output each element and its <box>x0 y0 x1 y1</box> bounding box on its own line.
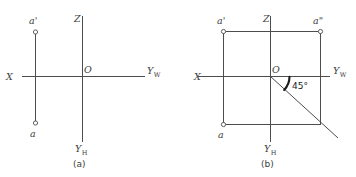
panel-b-point-front-marker <box>221 29 225 33</box>
panel-a-label-a: a <box>30 128 36 139</box>
panel-a-label-z: Z <box>73 13 81 24</box>
panel-a-point-front-marker <box>33 30 37 34</box>
projection-figure-svg: a' a X Z O YW YH (a) <box>0 0 356 177</box>
panel-b-label-a-double-prime: a" <box>313 15 323 26</box>
panel-a-caption: (a) <box>73 159 86 169</box>
figure-root: a' a X Z O YW YH (a) <box>0 0 356 177</box>
panel-b-label-origin: O <box>272 64 280 75</box>
panel-a-point-top-marker <box>33 121 37 125</box>
panel-a-label-yw: YW <box>147 65 161 79</box>
panel-a-label-origin: O <box>84 64 92 75</box>
panel-b-caption: (b) <box>261 159 274 169</box>
panel-a-label-x: X <box>5 71 14 82</box>
panel-a-group: a' a X Z O YW YH (a) <box>5 13 161 169</box>
panel-b-label-z: Z <box>262 13 270 24</box>
panel-b-label-a: a <box>218 129 224 140</box>
panel-b-group: a' a" a X Z O YW YH 45° (b) <box>193 13 347 169</box>
panel-b-angle-arc-icon <box>284 77 289 90</box>
panel-b-point-top-marker <box>221 122 225 126</box>
panel-b-label-yw: YW <box>333 65 347 79</box>
panel-b-label-x: X <box>193 71 202 82</box>
panel-a-label-yh: YH <box>75 143 88 157</box>
panel-a-label-a-prime: a' <box>29 15 37 26</box>
panel-b-label-yh: YH <box>264 143 277 157</box>
panel-b-label-a-prime: a' <box>217 15 225 26</box>
panel-b-label-angle: 45° <box>292 81 308 91</box>
panel-b-point-side-marker <box>318 29 322 33</box>
